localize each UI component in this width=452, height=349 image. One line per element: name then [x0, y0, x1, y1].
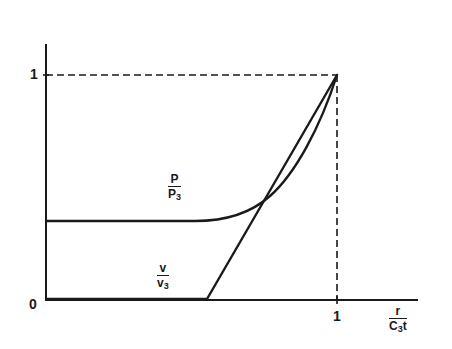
x-tick-label-1: 1 — [333, 309, 341, 323]
x-axis-label-denominator: C3t — [389, 319, 407, 334]
pressure-label-denominator: P3 — [168, 187, 181, 202]
velocity-curve — [46, 75, 337, 299]
velocity-label-denominator: v3 — [157, 276, 169, 291]
x-axis-label: r C3t — [389, 305, 407, 334]
velocity-curve-label: v v3 — [157, 262, 169, 291]
pressure-label-numerator: P — [169, 173, 181, 186]
pressure-curve-label: P P3 — [168, 173, 181, 202]
y-tick-label-0: 0 — [29, 297, 37, 311]
velocity-label-numerator: v — [158, 262, 169, 275]
x-axis-label-numerator: r — [394, 305, 403, 318]
y-tick-label-1: 1 — [30, 67, 38, 81]
diagram-canvas — [0, 0, 452, 349]
